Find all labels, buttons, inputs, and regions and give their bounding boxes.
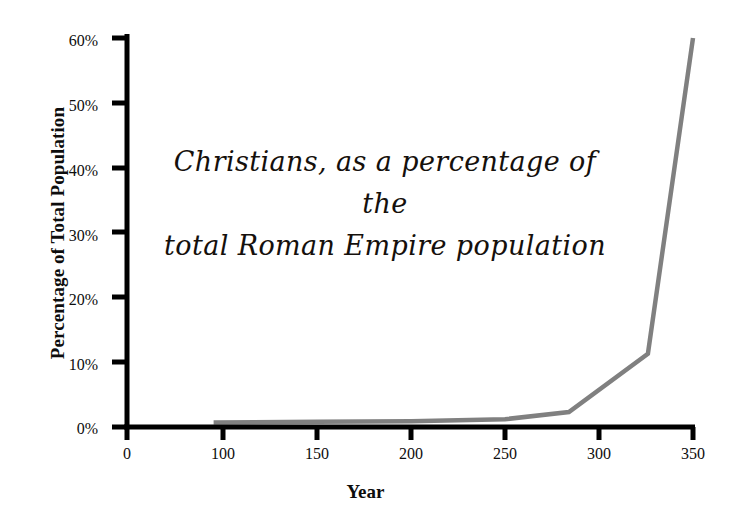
data-series-line	[214, 38, 693, 423]
plot-area	[0, 0, 731, 526]
chart-container: Percentage of Total Population Year Chri…	[0, 0, 731, 526]
